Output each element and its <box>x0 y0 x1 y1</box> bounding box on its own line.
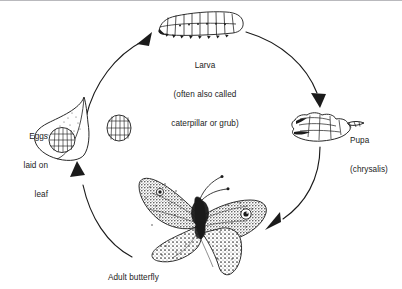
larva-label-line2: (often also called <box>148 90 262 100</box>
right-hindwing <box>202 228 242 275</box>
antenna-club <box>221 175 224 178</box>
larva-label: Larva (often also called caterpillar or … <box>148 42 262 148</box>
pupa-label-line1: Pupa <box>350 136 400 146</box>
adult-butterfly-label: Adult butterfly <box>108 254 188 289</box>
eggs-label: Eggs laid on leaf <box>4 113 48 219</box>
life-cycle-diagram: Larva (often also called caterpillar or … <box>0 0 402 289</box>
larva-label-line3: caterpillar or grub) <box>148 119 262 129</box>
left-forewing <box>139 178 199 228</box>
pupa-label: Pupa (chrysalis) <box>350 117 400 194</box>
larva-label-line1: Larva <box>148 61 262 71</box>
antenna-club <box>227 187 230 190</box>
pupa-label-line2: (chrysalis) <box>350 165 400 175</box>
eggs-label-line3: leaf <box>4 190 48 200</box>
eggs-label-line2: laid on <box>4 161 48 171</box>
eggs-label-line1: Eggs <box>4 132 48 142</box>
antennae <box>200 177 227 200</box>
adult-label-line1: Adult butterfly <box>108 273 188 283</box>
